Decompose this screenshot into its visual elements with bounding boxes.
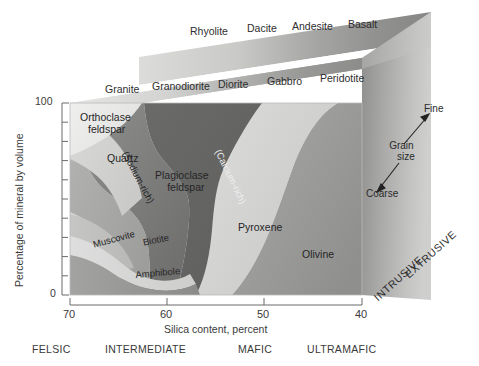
grain-size-fine-label: Fine bbox=[424, 103, 443, 114]
x-axis-title: Silica content, percent bbox=[164, 324, 267, 336]
grain-size-title-line1: Grain bbox=[389, 140, 413, 151]
rock-peridotite: Peridotite bbox=[320, 73, 364, 85]
y-tick-100: 100 bbox=[35, 96, 53, 108]
rock-dacite: Dacite bbox=[247, 23, 277, 35]
rock-granite: Granite bbox=[105, 84, 139, 96]
grain-size-title-line2: size bbox=[397, 151, 415, 162]
rock-diorite: Diorite bbox=[218, 79, 248, 91]
mineral-plagioclase-line2: feldspar bbox=[167, 182, 204, 194]
y-axis bbox=[62, 103, 69, 295]
mineral-olivine: Olivine bbox=[302, 249, 334, 261]
category-felsic: FELSIC bbox=[32, 344, 71, 356]
rock-gabbro: Gabbro bbox=[267, 76, 302, 88]
y-axis-title: Percentage of mineral by volume bbox=[14, 134, 26, 288]
rock-andesite: Andesite bbox=[292, 21, 333, 33]
grain-size-title: Grain size bbox=[388, 140, 415, 162]
x-axis bbox=[70, 298, 362, 305]
category-ultramafic: ULTRAMAFIC bbox=[307, 344, 376, 356]
mineral-pyroxene: Pyroxene bbox=[238, 222, 282, 234]
mineral-orthoclase-feldspar: Orthoclase feldspar bbox=[80, 112, 131, 136]
category-intermediate: INTERMEDIATE bbox=[105, 344, 186, 356]
x-tick-60: 60 bbox=[160, 308, 172, 320]
x-tick-70: 70 bbox=[63, 308, 75, 320]
mineral-orthoclase-line1: Orthoclase bbox=[80, 111, 131, 123]
mineral-plagioclase-feldspar: Plagioclase feldspar bbox=[155, 170, 209, 194]
grain-size-coarse-label: Coarse bbox=[366, 188, 398, 199]
rock-granodiorite: Granodiorite bbox=[152, 81, 210, 93]
x-tick-50: 50 bbox=[257, 308, 269, 320]
x-tick-40: 40 bbox=[355, 308, 367, 320]
rock-rhyolite: Rhyolite bbox=[190, 26, 228, 38]
mineral-plagioclase-line1: Plagioclase bbox=[155, 169, 209, 181]
y-tick-0: 0 bbox=[50, 288, 56, 300]
mineral-orthoclase-line2: feldspar bbox=[88, 124, 125, 136]
rock-basalt: Basalt bbox=[348, 19, 377, 31]
category-mafic: MAFIC bbox=[238, 344, 272, 356]
